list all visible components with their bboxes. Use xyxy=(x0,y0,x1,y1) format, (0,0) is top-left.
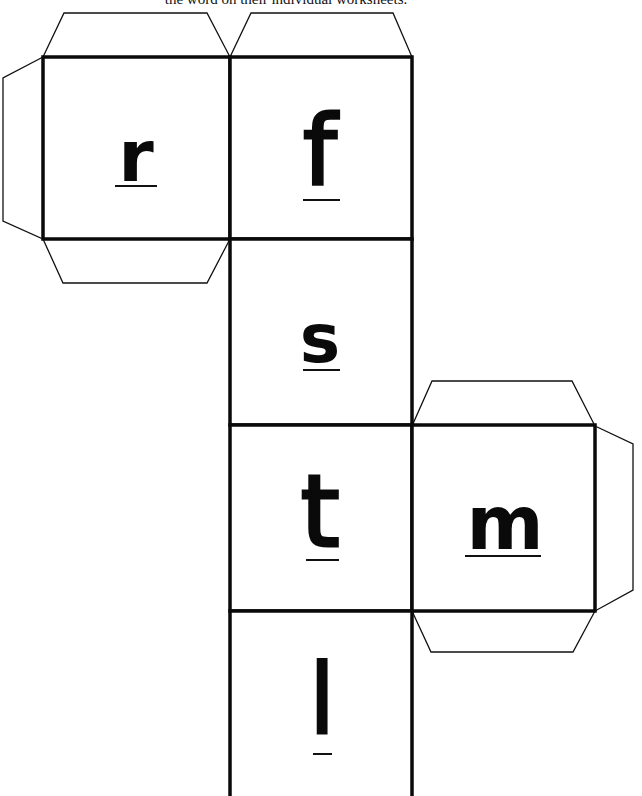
flap-m-right xyxy=(595,426,633,611)
letter-f: f xyxy=(290,103,350,199)
underline-t xyxy=(306,559,339,561)
letter-t: t xyxy=(290,462,350,562)
letter-l: l xyxy=(292,651,352,749)
letter-r: r xyxy=(106,120,166,192)
underline-m xyxy=(465,555,541,557)
letter-m: m xyxy=(455,486,555,560)
flap-r-bottom xyxy=(43,239,230,283)
underline-r xyxy=(115,185,157,187)
underline-s xyxy=(303,369,340,371)
flap-m-bottom xyxy=(412,611,595,652)
underline-l xyxy=(313,753,332,755)
flap-r-top xyxy=(43,13,230,57)
letter-s: s xyxy=(290,305,350,373)
flap-r-left xyxy=(3,57,43,239)
flap-f-top xyxy=(230,13,412,57)
flap-m-top xyxy=(412,381,595,426)
underline-f xyxy=(303,199,340,201)
